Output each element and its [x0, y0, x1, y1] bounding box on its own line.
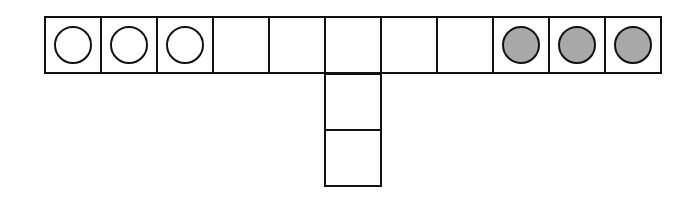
white-piece-icon[interactable]	[54, 26, 92, 64]
row-cell-0[interactable]	[44, 16, 102, 74]
row-cell-10[interactable]	[604, 16, 662, 74]
gray-piece-icon[interactable]	[614, 26, 652, 64]
white-piece-icon[interactable]	[166, 26, 204, 64]
gray-piece-icon[interactable]	[558, 26, 596, 64]
row-cell-1[interactable]	[100, 16, 158, 74]
stem-cell-1[interactable]	[324, 129, 382, 187]
row-cell-4[interactable]	[268, 16, 326, 74]
row-cell-7[interactable]	[436, 16, 494, 74]
stem-cell-0[interactable]	[324, 73, 382, 131]
row-cell-8[interactable]	[492, 16, 550, 74]
row-cell-9[interactable]	[548, 16, 606, 74]
row-cell-3[interactable]	[212, 16, 270, 74]
white-piece-icon[interactable]	[110, 26, 148, 64]
gray-piece-icon[interactable]	[502, 26, 540, 64]
puzzle-board	[0, 0, 695, 197]
row-cell-6[interactable]	[380, 16, 438, 74]
row-cell-5[interactable]	[324, 16, 382, 74]
row-cell-2[interactable]	[156, 16, 214, 74]
